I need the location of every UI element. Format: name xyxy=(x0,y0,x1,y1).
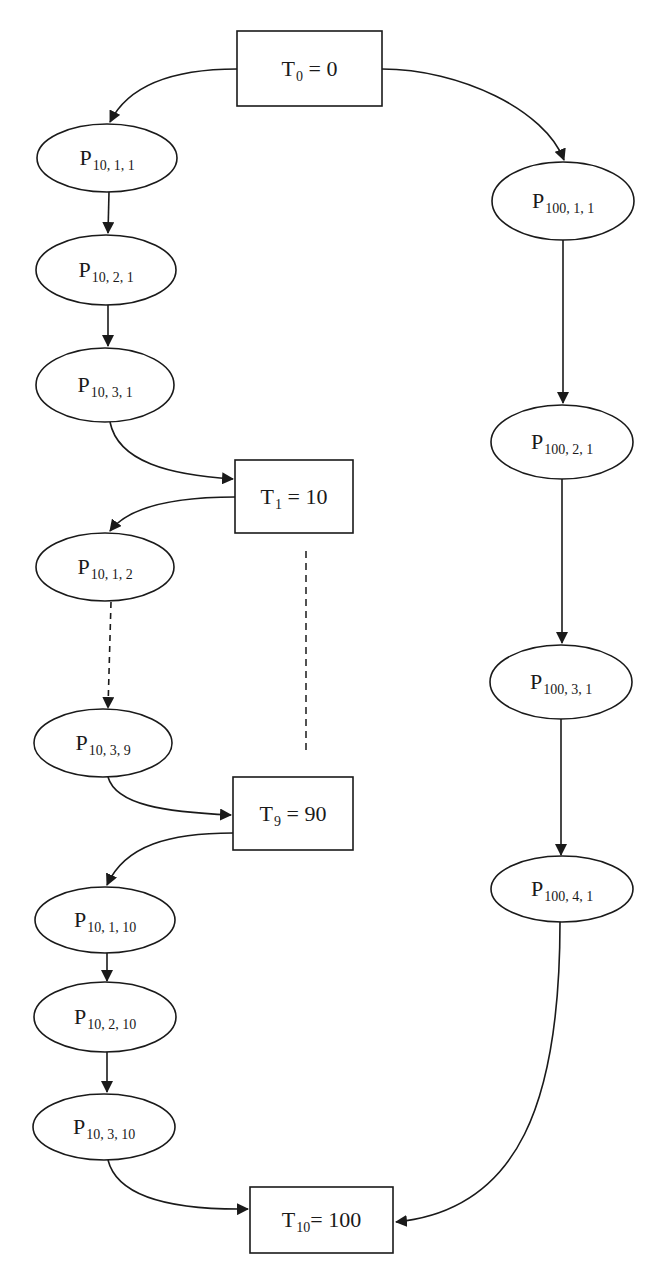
edge-p10_3_10-to-t10 xyxy=(108,1160,248,1209)
label-base: P xyxy=(73,1114,85,1139)
label-subscript: 10, 3, 10 xyxy=(86,1127,135,1142)
label-base: P xyxy=(77,372,89,397)
label-base: P xyxy=(77,554,89,579)
node-label-p10_1_10: P10, 1, 10 xyxy=(74,909,136,931)
label-subscript: 10, 3, 1 xyxy=(91,385,133,400)
label-subscript: 0 xyxy=(296,69,303,84)
label-base: P xyxy=(78,257,90,282)
label-base: P xyxy=(531,876,543,901)
node-label-t9: T9 = 90 xyxy=(260,803,327,825)
node-label-p10_2_10: P10, 2, 10 xyxy=(74,1006,136,1028)
node-label-p10_3_9: P10, 3, 9 xyxy=(75,732,130,754)
label-base: T xyxy=(282,1207,295,1232)
label-base: P xyxy=(79,145,91,170)
node-label-t0: T0 = 0 xyxy=(282,58,338,80)
label-subscript: 100, 2, 1 xyxy=(544,442,593,457)
node-label-p10_2_1: P10, 2, 1 xyxy=(78,259,133,281)
edge-t0-to-p10_1_1 xyxy=(110,69,237,122)
edges-layer xyxy=(107,69,564,1222)
node-label-p10_1_2: P10, 1, 2 xyxy=(77,556,132,578)
label-base: T xyxy=(282,56,295,81)
edge-p100_4_1-to-t10 xyxy=(396,922,560,1222)
edge-p10_3_9-to-t9 xyxy=(108,777,231,815)
label-subscript: 10, 1, 10 xyxy=(87,920,136,935)
node-label-p100_4_1: P100, 4, 1 xyxy=(531,878,593,900)
label-base: P xyxy=(530,669,542,694)
label-subscript: 100, 4, 1 xyxy=(544,889,593,904)
node-label-p100_1_1: P100, 1, 1 xyxy=(532,190,594,212)
node-label-p100_3_1: P100, 3, 1 xyxy=(530,671,592,693)
label-subscript: 1 xyxy=(275,497,282,512)
label-base: P xyxy=(532,188,544,213)
label-base: P xyxy=(75,730,87,755)
label-subscript: 10, 2, 10 xyxy=(87,1017,136,1032)
label-subscript: 100, 1, 1 xyxy=(545,201,594,216)
edge-t0-to-p100_1_1 xyxy=(382,69,564,160)
edge-t9-to-p10_1_10 xyxy=(107,833,233,885)
label-base: T xyxy=(260,801,273,826)
label-subscript: 10 xyxy=(296,1220,310,1235)
label-base: T xyxy=(261,484,274,509)
label-subscript: 100, 3, 1 xyxy=(543,682,592,697)
node-label-p10_1_1: P10, 1, 1 xyxy=(79,147,134,169)
label-base: P xyxy=(74,907,86,932)
label-subscript: 10, 1, 2 xyxy=(91,567,133,582)
edge-p10_1_1-to-p10_2_1 xyxy=(108,192,109,233)
label-value: = 90 xyxy=(281,801,326,826)
edge-t1-to-p10_1_2 xyxy=(110,497,235,531)
node-label-p10_3_10: P10, 3, 10 xyxy=(73,1116,135,1138)
label-value: = 0 xyxy=(303,56,337,81)
nodes-layer xyxy=(33,31,634,1253)
edge-p10_1_2-to-p10_3_9 xyxy=(108,602,111,708)
label-subscript: 9 xyxy=(274,814,281,829)
label-value: = 100 xyxy=(310,1207,361,1232)
node-label-p10_3_1: P10, 3, 1 xyxy=(77,374,132,396)
node-label-t10: T10= 100 xyxy=(282,1209,361,1231)
node-label-p100_2_1: P100, 2, 1 xyxy=(531,431,593,453)
label-subscript: 10, 3, 9 xyxy=(89,743,131,758)
label-value: = 10 xyxy=(282,484,327,509)
edge-p10_3_1-to-t1 xyxy=(110,422,233,479)
label-subscript: 10, 1, 1 xyxy=(93,158,135,173)
node-label-t1: T1 = 10 xyxy=(261,486,328,508)
label-base: P xyxy=(531,429,543,454)
label-subscript: 10, 2, 1 xyxy=(92,270,134,285)
label-base: P xyxy=(74,1004,86,1029)
